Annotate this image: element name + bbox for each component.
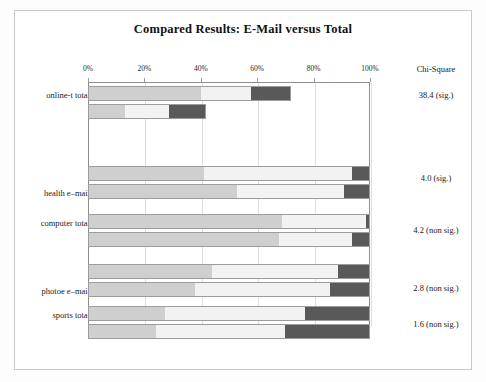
stacked-bar: [88, 324, 370, 339]
bar-segment: [169, 105, 205, 118]
bar-segment: [89, 265, 212, 278]
bar-segment: [195, 283, 329, 296]
x-tick-mark: [144, 78, 145, 82]
bar-segment: [156, 325, 285, 338]
category-label: computer total: [41, 218, 90, 228]
chi-square-value: 4.2 (non sig.): [390, 225, 482, 235]
bar-segment: [330, 283, 369, 296]
category-label: online-t total: [46, 90, 90, 100]
stacked-bar: [88, 306, 370, 321]
figure-canvas: Compared Results: E-Mail versus Total 0%…: [0, 0, 486, 382]
x-tick-label: 60%: [250, 64, 264, 73]
bar-segment: [89, 215, 282, 228]
chi-square-value: 4.0 (sig.): [390, 173, 482, 183]
stacked-bar: [88, 214, 370, 229]
bar-segment: [285, 325, 369, 338]
bar-segment: [344, 185, 369, 198]
bar-segment: [89, 105, 125, 118]
category-label: sports total: [52, 310, 90, 320]
bar-segment: [251, 87, 290, 100]
bar-segment: [89, 167, 204, 180]
stacked-bar: [88, 166, 370, 181]
bar-segment: [201, 87, 251, 100]
bar-segment: [89, 233, 279, 246]
x-tick-mark: [370, 78, 371, 82]
bar-segment: [237, 185, 343, 198]
bar-segment: [89, 87, 201, 100]
bar-segment: [89, 185, 237, 198]
x-tick-label: 100%: [361, 64, 379, 73]
category-label: photoe e–mail: [42, 286, 90, 296]
bar-segment: [279, 233, 352, 246]
x-tick-mark: [314, 78, 315, 82]
bar-segment: [89, 307, 165, 320]
stacked-bar: [88, 184, 370, 199]
bar-segment: [89, 325, 156, 338]
chi-square-header: Chi-Square: [390, 64, 482, 74]
bar-segment: [89, 283, 195, 296]
bar-segment: [204, 167, 352, 180]
bar-segment: [338, 265, 369, 278]
chi-square-value: 1.6 (non sig.): [390, 319, 482, 329]
x-tick-label: 40%: [194, 64, 208, 73]
stacked-bar: [88, 86, 291, 101]
bar-segment: [305, 307, 369, 320]
page-title: Compared Results: E-Mail versus Total: [0, 22, 486, 37]
stacked-bar: [88, 232, 370, 247]
stacked-bar: [88, 104, 206, 119]
chi-square-value: 38.4 (sig.): [390, 90, 482, 100]
x-tick-label: 80%: [307, 64, 321, 73]
bar-segment: [165, 307, 305, 320]
bar-segment: [352, 167, 369, 180]
stacked-bar: [88, 282, 370, 297]
chi-square-value: 2.8 (non sig.): [390, 283, 482, 293]
gridline: [371, 83, 372, 327]
x-tick-mark: [88, 78, 89, 82]
bar-segment: [212, 265, 338, 278]
bar-segment: [282, 215, 366, 228]
stacked-bar: [88, 264, 370, 279]
x-tick-mark: [201, 78, 202, 82]
x-tick-label: 0%: [83, 64, 93, 73]
bar-segment: [366, 215, 369, 228]
x-tick-label: 20%: [138, 64, 152, 73]
bar-segment: [125, 105, 169, 118]
bar-segment: [352, 233, 369, 246]
category-label: health e–mail: [44, 188, 90, 198]
x-tick-mark: [257, 78, 258, 82]
